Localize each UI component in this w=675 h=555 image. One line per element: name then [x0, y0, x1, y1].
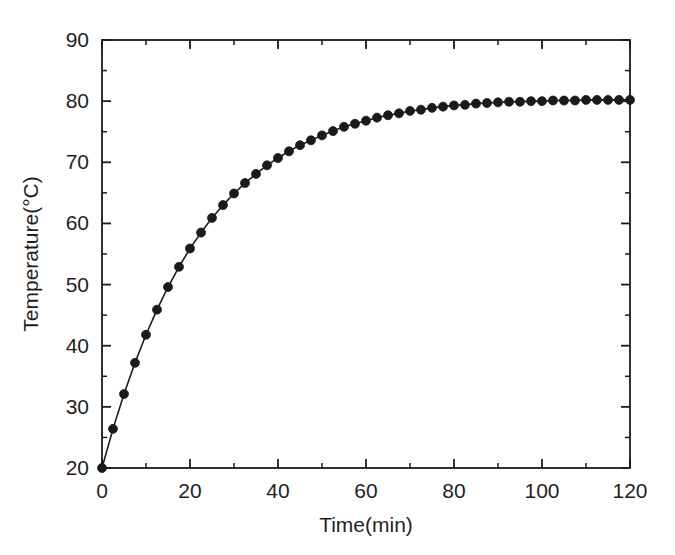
data-point-marker	[175, 262, 184, 271]
data-point-marker	[549, 96, 558, 105]
data-point-marker	[186, 244, 195, 253]
data-point-marker	[274, 154, 283, 163]
y-axis-tick-labels: 2030405060708090	[66, 28, 89, 479]
data-point-marker	[307, 136, 316, 145]
x-tick-label: 120	[612, 479, 647, 502]
data-point-marker	[263, 161, 272, 170]
data-point-marker	[153, 305, 162, 314]
y-tick-label: 30	[66, 395, 89, 418]
y-tick-label: 40	[66, 334, 89, 357]
data-point-marker	[285, 147, 294, 156]
x-tick-label: 80	[442, 479, 465, 502]
data-point-marker	[109, 424, 118, 433]
data-point-marker	[406, 106, 415, 115]
data-point-marker	[417, 105, 426, 114]
data-point-marker	[142, 330, 151, 339]
data-point-marker	[615, 95, 624, 104]
data-point-marker	[461, 100, 470, 109]
x-tick-label: 100	[524, 479, 559, 502]
data-point-marker	[340, 122, 349, 131]
data-point-marker	[439, 102, 448, 111]
data-point-marker	[527, 97, 536, 106]
data-point-marker	[362, 116, 371, 125]
data-point-marker	[494, 98, 503, 107]
data-point-marker	[208, 213, 217, 222]
data-point-marker	[351, 119, 360, 128]
data-point-marker	[197, 228, 206, 237]
data-point-marker	[582, 95, 591, 104]
temperature-vs-time-line-chart: 020406080100120 2030405060708090 Time(mi…	[0, 0, 675, 555]
x-tick-label: 20	[178, 479, 201, 502]
data-point-marker	[395, 109, 404, 118]
data-point-marker	[329, 127, 338, 136]
x-tick-label: 40	[266, 479, 289, 502]
data-point-marker	[538, 97, 547, 106]
data-point-marker	[373, 113, 382, 122]
data-point-marker	[560, 96, 569, 105]
y-axis-title: Temperature(°C)	[19, 176, 42, 331]
x-axis-tick-labels: 020406080100120	[96, 479, 647, 502]
data-point-marker	[428, 103, 437, 112]
y-tick-label: 90	[66, 28, 89, 51]
data-series-line	[102, 100, 630, 468]
data-point-marker	[318, 131, 327, 140]
data-point-marker	[252, 169, 261, 178]
data-point-marker	[98, 464, 107, 473]
data-point-marker	[483, 98, 492, 107]
y-tick-label: 50	[66, 273, 89, 296]
data-point-marker	[164, 283, 173, 292]
data-point-marker	[604, 95, 613, 104]
y-tick-label: 20	[66, 456, 89, 479]
data-point-marker	[120, 390, 129, 399]
data-point-marker	[571, 96, 580, 105]
data-point-marker	[626, 95, 635, 104]
x-tick-label: 0	[96, 479, 108, 502]
data-point-marker	[241, 179, 250, 188]
y-tick-label: 80	[66, 89, 89, 112]
data-point-marker	[384, 111, 393, 120]
data-point-marker	[472, 99, 481, 108]
data-point-marker	[505, 97, 514, 106]
y-tick-label: 60	[66, 211, 89, 234]
data-point-marker	[593, 95, 602, 104]
data-point-marker	[219, 201, 228, 210]
x-tick-label: 60	[354, 479, 377, 502]
data-series-markers	[98, 95, 635, 472]
y-tick-label: 70	[66, 150, 89, 173]
data-point-marker	[296, 141, 305, 150]
data-point-marker	[131, 358, 140, 367]
chart-figure: 020406080100120 2030405060708090 Time(mi…	[0, 0, 675, 555]
data-point-marker	[516, 97, 525, 106]
data-point-marker	[230, 189, 239, 198]
data-point-marker	[450, 101, 459, 110]
x-axis-title: Time(min)	[319, 513, 413, 536]
